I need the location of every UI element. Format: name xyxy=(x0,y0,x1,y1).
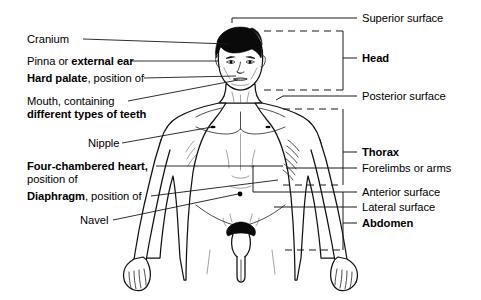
label-diaphragm: Diaphragm, position of xyxy=(27,190,142,203)
label-four-chambered-heart: Four-chambered heart, position of xyxy=(27,160,227,187)
label-navel: Navel xyxy=(80,214,108,227)
diagram-canvas: .ln{stroke:#1a1a1a;stroke-width:0.9;fill… xyxy=(0,0,481,300)
label-mouth-teeth: Mouth, containing different types of tee… xyxy=(27,95,227,122)
diaphragm-box xyxy=(253,166,283,192)
bracket-head xyxy=(264,31,343,90)
human-figure xyxy=(124,27,358,291)
label-posterior-surface: Posterior surface xyxy=(362,90,446,103)
leader-cranium xyxy=(83,39,229,44)
label-pinna-external-ear: Pinna or external ear xyxy=(27,55,134,68)
label-nipple: Nipple xyxy=(88,137,119,150)
label-hard-palate: Hard palate, position of xyxy=(27,72,144,85)
anatomy-figure-artwork: .ln{stroke:#1a1a1a;stroke-width:0.9;fill… xyxy=(0,0,481,300)
leader-superior-surface xyxy=(232,18,357,23)
label-thorax: Thorax xyxy=(362,146,399,159)
leader-posterior-surface xyxy=(276,96,357,100)
label-superior-surface: Superior surface xyxy=(362,12,443,25)
label-head: Head xyxy=(362,52,389,65)
label-abdomen: Abdomen xyxy=(362,217,413,230)
label-forelimbs-or-arms: Forelimbs or arms xyxy=(362,162,451,175)
label-lateral-surface: Lateral surface xyxy=(362,201,435,214)
label-anterior-surface: Anterior surface xyxy=(362,186,440,199)
label-cranium: Cranium xyxy=(27,33,69,46)
